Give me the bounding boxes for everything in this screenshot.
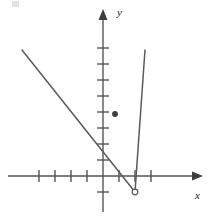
coordinate-plane-svg [0, 0, 210, 218]
filled-circle-marker [112, 111, 118, 117]
curve-right-branch [135, 50, 145, 192]
y-axis-arrowhead [99, 9, 108, 20]
y-axis-label: y [117, 7, 122, 18]
graph-figure: y x [0, 0, 210, 218]
x-axis-arrowhead [192, 172, 203, 181]
x-axis-label: x [195, 190, 200, 201]
open-circle-marker [132, 189, 138, 195]
